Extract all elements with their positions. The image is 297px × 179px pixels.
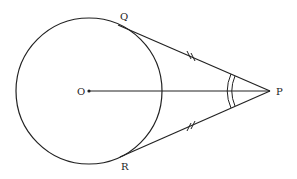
label-q: Q — [120, 11, 128, 22]
tangent-pr — [120, 91, 270, 157]
center-dot — [87, 89, 90, 92]
label-o: O — [77, 86, 85, 97]
label-r: R — [121, 161, 129, 172]
label-p: P — [276, 86, 283, 97]
tangent-diagram: O P Q R — [0, 0, 297, 179]
